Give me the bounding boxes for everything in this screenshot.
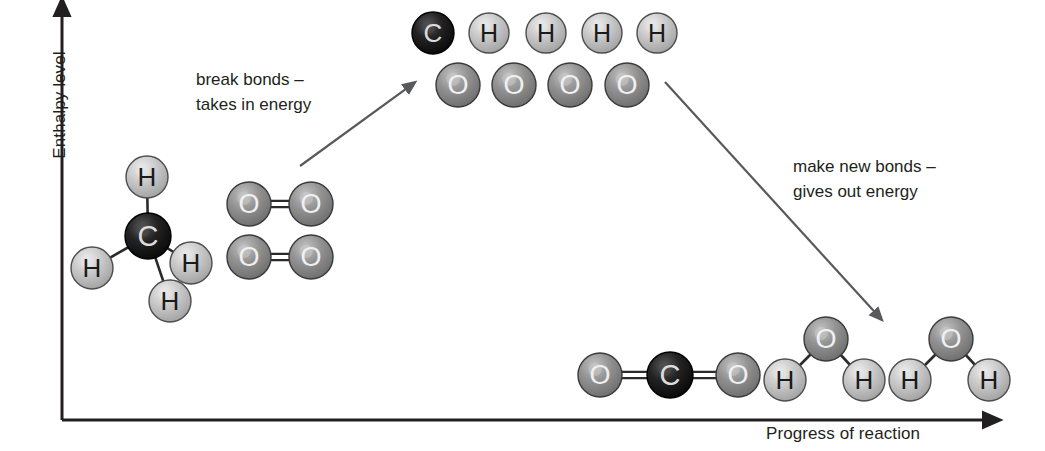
annotation-arrows-group [300, 82, 875, 312]
atom-label: H [480, 19, 498, 47]
atom-label: O [940, 324, 961, 354]
molecule-water-product-1: OHH [764, 317, 885, 401]
atom-h: H [968, 359, 1010, 401]
atom-label: O [447, 70, 468, 100]
atom-o: O [578, 353, 622, 397]
atom-label: H [980, 365, 999, 395]
atom-label: O [727, 360, 748, 390]
molecule-water-product-2: OHH [889, 317, 1010, 401]
annotation-arrow-break-bonds [300, 88, 407, 166]
atom-o: O [227, 182, 271, 226]
atom-label: O [300, 189, 321, 219]
atom-label: H [161, 286, 180, 316]
atom-h: H [526, 13, 566, 53]
atom-o: O [605, 63, 649, 107]
atom-label: O [616, 70, 637, 100]
atom-h: H [637, 13, 677, 53]
atom-label: C [138, 220, 159, 252]
atom-h: H [582, 13, 622, 53]
molecule-separated-atoms-top-row: CHHHH [412, 12, 677, 54]
atom-label: C [660, 359, 681, 391]
atom-label: O [238, 242, 259, 272]
atom-label: H [537, 19, 555, 47]
atom-label: O [815, 324, 836, 354]
atom-h: H [764, 359, 806, 401]
atom-label: H [776, 365, 795, 395]
atom-h: H [149, 280, 191, 322]
atom-label: H [138, 162, 157, 192]
atom-h: H [469, 13, 509, 53]
atom-label: H [855, 365, 874, 395]
diagram-canvas: CHHHHOOOOCHHHHOOOOOCOOHHOHH [0, 0, 1045, 451]
atom-label: H [182, 248, 201, 278]
molecule-carbon-dioxide-product: OCO [578, 352, 760, 398]
atom-label: H [593, 19, 611, 47]
atom-label: H [901, 365, 920, 395]
atom-o: O [289, 235, 333, 279]
atom-o: O [227, 235, 271, 279]
atom-o: O [929, 317, 973, 361]
enthalpy-diagram: CHHHHOOOOCHHHHOOOOOCOOHHOHH Enthalpy lev… [0, 0, 1045, 451]
atom-label: C [424, 18, 443, 48]
atom-label: O [238, 189, 259, 219]
atom-h: H [126, 156, 168, 198]
molecule-separated-atoms-bottom-row: OOOO [436, 63, 649, 107]
atom-h: H [843, 359, 885, 401]
atom-c: C [647, 352, 693, 398]
atom-label: O [589, 360, 610, 390]
atom-c: C [412, 12, 454, 54]
atom-c: C [125, 213, 171, 259]
annotation-break-bonds: break bonds – takes in energy [196, 67, 311, 117]
molecule-oxygen-reactant-1: OO [227, 182, 333, 226]
y-axis-label: Enthalpy level [50, 25, 70, 185]
atom-o: O [289, 182, 333, 226]
atom-o: O [492, 63, 536, 107]
atom-h: H [889, 359, 931, 401]
atom-label: H [648, 19, 666, 47]
atom-label: O [300, 242, 321, 272]
atom-o: O [716, 353, 760, 397]
atom-o: O [548, 63, 592, 107]
annotation-make-bonds: make new bonds – gives out energy [793, 154, 936, 204]
molecule-methane-reactant: CHHHH [71, 156, 212, 322]
atom-label: O [503, 70, 524, 100]
atom-h: H [71, 247, 113, 289]
atom-o: O [804, 317, 848, 361]
atom-label: H [83, 253, 102, 283]
atom-label: O [559, 70, 580, 100]
x-axis-label: Progress of reaction [766, 424, 920, 444]
atom-h: H [170, 242, 212, 284]
molecule-oxygen-reactant-2: OO [227, 235, 333, 279]
atom-o: O [436, 63, 480, 107]
